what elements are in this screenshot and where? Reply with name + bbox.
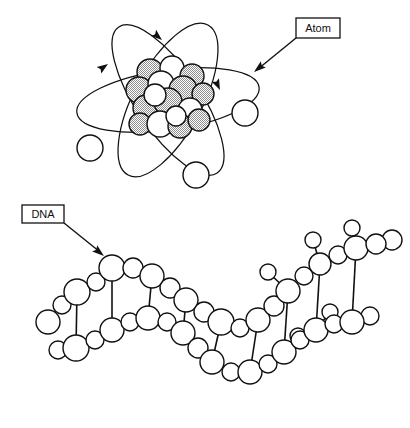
nucleon-sphere	[188, 109, 210, 131]
orbit-arrow-icon-2	[97, 61, 111, 74]
dna-sphere-strand-b	[63, 335, 89, 361]
dna-sphere-strand-a	[309, 253, 331, 275]
dna-sphere-strand-b	[200, 350, 224, 374]
atom-label-text: Atom	[305, 22, 331, 34]
atom-leader-arrow-icon	[251, 61, 265, 75]
nucleon-sphere	[144, 84, 166, 106]
electron-sphere	[77, 135, 103, 161]
diagram-page: Atom DNA	[0, 0, 410, 428]
nucleon-sphere	[166, 106, 186, 126]
atom-label-group[interactable]: Atom	[251, 18, 340, 75]
dna-branch-sphere	[305, 232, 321, 248]
dna-sphere-strand-a	[208, 309, 234, 335]
dna-label-group[interactable]: DNA	[22, 205, 107, 259]
atom-leader-line	[258, 38, 296, 69]
dna-branch-sphere	[260, 264, 276, 280]
dna-leader-line	[64, 223, 100, 252]
dna-sphere-strand-a	[36, 310, 60, 334]
dna-sphere-strand-a	[344, 236, 368, 260]
dna-sphere-strand-a	[64, 279, 90, 305]
dna-sphere-strand-b	[136, 306, 160, 330]
dna-sphere-strand-b	[304, 318, 328, 342]
dna-sphere-strand-a	[99, 255, 125, 281]
dna-sphere-strand-b	[340, 310, 364, 334]
dna-sphere-strand-a	[276, 279, 300, 303]
science-diagram: Atom DNA	[0, 0, 410, 428]
dna-branch-sphere	[344, 220, 360, 236]
dna-sphere-strand-a	[366, 234, 386, 254]
atom-nucleus	[126, 56, 214, 138]
orbit-arrow-icon-1	[151, 30, 165, 43]
dna-label-text: DNA	[31, 208, 55, 220]
electron-sphere	[183, 162, 209, 188]
electron-sphere	[232, 100, 258, 126]
